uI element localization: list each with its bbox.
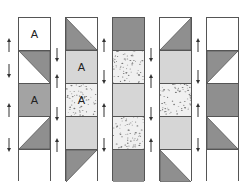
solid-square — [160, 51, 191, 84]
solid-square — [113, 84, 144, 117]
arrow-down-icon — [54, 48, 60, 62]
solid-square — [207, 84, 238, 117]
half-square-triangle — [207, 117, 238, 150]
arrow-up-icon — [6, 38, 12, 52]
half-square-triangle — [66, 18, 97, 51]
arrow-up-icon — [148, 138, 154, 152]
speckled-square: A — [66, 84, 97, 117]
quilt-strip-1: AA — [18, 17, 51, 181]
arrow-up-icon — [101, 103, 107, 117]
solid-square: A — [19, 84, 50, 117]
solid-square — [207, 18, 238, 51]
arrow-up-icon — [101, 38, 107, 52]
solid-square — [160, 117, 191, 150]
half-square-triangle — [66, 150, 97, 182]
solid-square — [66, 117, 97, 150]
half-square-triangle — [160, 18, 191, 51]
half-square-triangle — [19, 117, 50, 150]
solid-square — [113, 150, 144, 182]
arrow-up-icon — [54, 138, 60, 152]
arrow-up-icon — [54, 74, 60, 88]
quilt-strip-5 — [206, 17, 239, 181]
arrow-down-icon — [101, 138, 107, 152]
speckled-square — [113, 117, 144, 150]
arrow-down-icon — [54, 107, 60, 121]
piece-label: A — [19, 18, 50, 50]
arrow-down-icon — [6, 138, 12, 152]
speckled-square — [113, 51, 144, 84]
arrow-up-icon — [6, 103, 12, 117]
solid-square: A — [19, 18, 50, 51]
arrow-up-icon — [148, 74, 154, 88]
arrow-down-icon — [195, 70, 201, 84]
quilt-strip-3 — [112, 17, 145, 181]
half-square-triangle — [207, 51, 238, 84]
speckled-square — [160, 84, 191, 117]
arrow-down-icon — [148, 107, 154, 121]
half-square-triangle — [160, 150, 191, 182]
arrow-down-icon — [6, 64, 12, 78]
solid-square — [113, 18, 144, 51]
half-square-triangle — [19, 51, 50, 84]
quilt-strip-4 — [159, 17, 192, 181]
arrow-up-icon — [195, 103, 201, 117]
solid-square: A — [66, 51, 97, 84]
arrow-up-icon — [195, 38, 201, 52]
quilt-strip-2: AA — [65, 17, 98, 181]
solid-square — [207, 150, 238, 182]
arrow-down-icon — [148, 48, 154, 62]
piece-label: A — [66, 51, 97, 83]
arrow-down-icon — [195, 138, 201, 152]
solid-square — [19, 150, 50, 182]
piece-label: A — [66, 84, 97, 116]
piece-label: A — [19, 84, 50, 116]
arrow-down-icon — [101, 70, 107, 84]
